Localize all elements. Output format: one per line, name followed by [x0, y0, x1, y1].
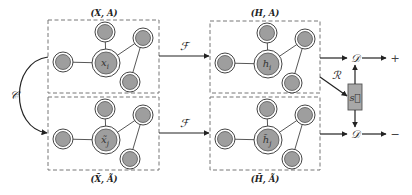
graph-node [282, 149, 302, 169]
readout-label: ℛ [332, 69, 342, 82]
graph-node [133, 28, 153, 48]
group-label-embed-corrupted: (H̃, Ã) [251, 173, 280, 185]
graph-node [95, 99, 115, 119]
graph-node [257, 99, 277, 119]
graph-node [295, 105, 315, 125]
graph-input-corrupted: x̃j [53, 99, 153, 169]
graph-embed-corrupted: h̃j [215, 99, 315, 169]
graph-node [53, 52, 73, 72]
graph-node [120, 72, 140, 92]
graph-center-node: hi [254, 50, 282, 78]
encoder-label-bottom: ℱ [180, 117, 191, 130]
graph-input-original: xi [53, 22, 153, 92]
graph-node [215, 53, 235, 73]
graph-node [120, 149, 140, 169]
graph-center-node: h̃j [254, 126, 282, 154]
group-label-input-original: (X, A) [90, 8, 117, 19]
negative-output-label: − [390, 128, 399, 141]
graph-node [282, 73, 302, 93]
graph-node [95, 22, 115, 42]
group-label-embed-original: (H, A) [251, 8, 280, 19]
graph-node [295, 29, 315, 49]
graph-center-node: xi [92, 49, 120, 77]
corruption-arrow [19, 57, 48, 133]
group-label-input-corrupted: (X̃, Ã) [90, 173, 117, 185]
graph-node [133, 105, 153, 125]
discriminator-label-bottom: 𝒟 [351, 128, 362, 141]
dgi-architecture-diagram: (X, A) (X̃, Ã) (H, A) (H̃, Ã) xi x̃j hi … [0, 0, 412, 195]
positive-output-label: + [390, 52, 399, 65]
discriminator-label-top: 𝒟 [351, 52, 362, 65]
graph-node [215, 129, 235, 149]
encoder-label-top: ℱ [180, 40, 191, 53]
graph-embed-original: hi [215, 23, 315, 93]
graph-node [53, 129, 73, 149]
graph-node [257, 23, 277, 43]
graph-center-node: x̃j [92, 126, 120, 154]
summary-vector-label: s⃗ [349, 92, 360, 103]
